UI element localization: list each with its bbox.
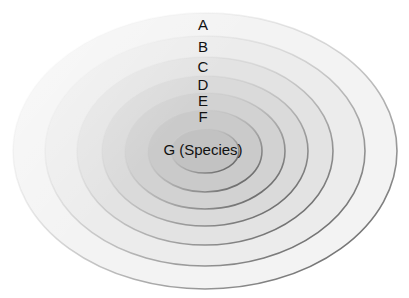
level-label-3: C [198, 58, 209, 75]
level-label-7: G (Species) [163, 141, 242, 158]
level-label-4: D [198, 76, 209, 93]
level-label-5: E [198, 92, 208, 109]
nested-taxonomy-diagram: ABCDEFG (Species) [0, 0, 409, 298]
level-label-2: B [198, 38, 208, 55]
level-label-1: A [198, 16, 208, 33]
level-label-6: F [198, 108, 207, 125]
